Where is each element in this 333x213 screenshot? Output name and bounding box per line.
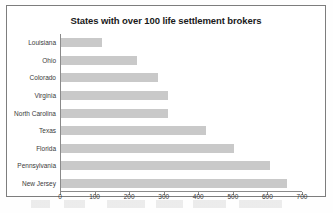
bar-row: Texas: [61, 122, 206, 140]
plot-area: LouisianaOhioColoradoVirginiaNorth Carol…: [60, 34, 302, 192]
y-axis-tick-label: Virginia: [34, 91, 56, 100]
bar: [61, 161, 270, 170]
y-axis-tick-label: North Carolina: [14, 109, 56, 118]
y-axis-tick-label: Ohio: [42, 56, 56, 65]
x-axis-tick-label: 500: [227, 193, 238, 200]
bar-row: Ohio: [61, 52, 137, 70]
y-axis-tick-label: New Jersey: [22, 179, 56, 188]
y-axis-tick-label: Florida: [36, 144, 56, 153]
bar: [61, 126, 206, 135]
x-axis-tick-label: 0: [58, 193, 62, 200]
bar-row: Louisiana: [61, 34, 102, 52]
bar-row: New Jersey: [61, 174, 287, 192]
chart-title: States with over 100 life settlement bro…: [7, 15, 325, 26]
x-axis-tick-label: 300: [158, 193, 169, 200]
y-axis-tick-label: Texas: [39, 126, 56, 135]
bar: [61, 73, 158, 82]
bar: [61, 91, 168, 100]
bar: [61, 144, 234, 153]
x-axis-tick-label: 200: [124, 193, 135, 200]
bar: [61, 56, 137, 65]
bar-row: Florida: [61, 139, 234, 157]
figure: States with over 100 life settlement bro…: [0, 0, 333, 213]
x-axis-tick-label: 700: [297, 193, 308, 200]
bar-row: Pennsylvania: [61, 157, 270, 175]
bar-row: North Carolina: [61, 104, 168, 122]
y-axis-tick-label: Louisiana: [28, 38, 56, 47]
chart-frame: States with over 100 life settlement bro…: [6, 5, 326, 197]
x-axis-tick-label: 100: [89, 193, 100, 200]
bar-row: Virginia: [61, 87, 168, 105]
bar-row: Colorado: [61, 69, 158, 87]
y-axis-tick-label: Colorado: [30, 73, 56, 82]
bar: [61, 109, 168, 118]
bar: [61, 38, 102, 47]
y-axis-tick-label: Pennsylvania: [17, 161, 56, 170]
caption-ghost-text: [26, 200, 296, 208]
x-axis-tick-label: 600: [262, 193, 273, 200]
bar: [61, 179, 287, 188]
x-axis-tick-label: 400: [193, 193, 204, 200]
